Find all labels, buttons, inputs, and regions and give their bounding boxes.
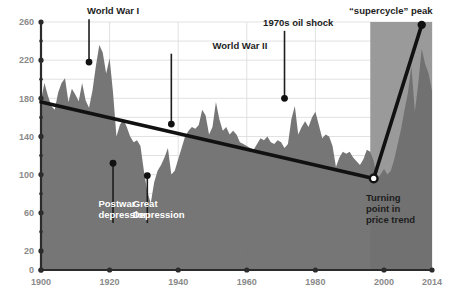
y-axis-minor-tick (39, 77, 43, 81)
y-axis-tick-label: 20 (24, 246, 34, 256)
y-axis-tick-label: 220 (19, 55, 34, 65)
x-axis-tick (313, 267, 318, 272)
annotation-label-world-war-1: World War I (87, 5, 139, 16)
y-axis-tick (38, 248, 43, 253)
annotation-label-oil-shock: 1970s oil shock (263, 17, 334, 28)
annotation-label-turning-point: price trend (366, 214, 415, 225)
x-axis-tick (107, 267, 112, 272)
y-axis-tick (38, 267, 43, 272)
turning-point-marker-inner (371, 176, 376, 181)
y-axis-minor-tick (39, 230, 43, 234)
y-axis-tick-label: 100 (19, 170, 34, 180)
y-axis-tick (38, 96, 43, 101)
x-axis-tick-label: 1980 (305, 277, 325, 287)
y-axis-minor-tick (39, 154, 43, 158)
commodity-price-chart: 1900192019401960198020002014020601001401… (0, 0, 451, 301)
y-axis-tick-label: 140 (19, 132, 34, 142)
y-axis-tick-label: 260 (19, 17, 34, 27)
annotation-point-dot (281, 95, 288, 102)
annotation-label-turning-point: point in (366, 203, 400, 214)
x-axis-tick (176, 267, 181, 272)
annotation-label-great-depression: Great (133, 198, 159, 209)
x-axis-tick-label: 1900 (31, 277, 51, 287)
annotation-label-postwar: Postwar (98, 198, 135, 209)
x-axis-tick (244, 267, 249, 272)
y-axis-minor-tick (39, 192, 43, 196)
y-axis-tick (38, 58, 43, 63)
x-axis-tick-label: 2000 (374, 277, 394, 287)
y-axis-minor-tick (39, 116, 43, 120)
y-axis-tick-label: 180 (19, 94, 34, 104)
y-axis-tick (38, 210, 43, 215)
annotation-point-dot (110, 160, 117, 167)
annotation-label-turning-point: Turning (366, 192, 401, 203)
annotation-point-dot (144, 172, 151, 179)
annotation-label-world-war-2: World War II (212, 40, 267, 51)
y-axis-tick (38, 19, 43, 24)
annotation-point-dot (168, 121, 175, 128)
y-axis-tick (38, 134, 43, 139)
x-axis-tick-label: 1920 (100, 277, 120, 287)
annotation-label-great-depression: Depression (133, 209, 185, 220)
x-axis-tick (429, 267, 434, 272)
supercycle-peak-marker (418, 21, 426, 29)
annotation-label-supercycle: “supercycle” peak (349, 5, 433, 16)
chart-canvas: 1900192019401960198020002014020601001401… (0, 0, 451, 301)
x-axis-tick (381, 267, 386, 272)
x-axis-tick-label: 1940 (168, 277, 188, 287)
annotation-point-dot (86, 59, 93, 66)
y-axis-tick-label: 0 (29, 265, 34, 275)
y-axis-tick-label: 60 (24, 208, 34, 218)
x-axis-tick-label: 2014 (422, 277, 442, 287)
y-axis-tick (38, 172, 43, 177)
y-axis-minor-tick (39, 39, 43, 43)
x-axis-tick-label: 1960 (237, 277, 257, 287)
